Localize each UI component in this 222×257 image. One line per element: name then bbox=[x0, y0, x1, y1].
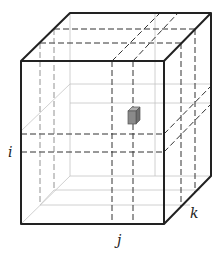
faint-guides bbox=[21, 13, 211, 224]
cube-edges bbox=[21, 13, 211, 224]
highlighted-cell bbox=[128, 107, 140, 124]
slice-dashes bbox=[21, 13, 211, 224]
label-j: j bbox=[114, 232, 122, 248]
cube-diagram: i j k bbox=[0, 0, 222, 257]
label-k: k bbox=[190, 205, 198, 221]
label-i: i bbox=[8, 144, 12, 160]
